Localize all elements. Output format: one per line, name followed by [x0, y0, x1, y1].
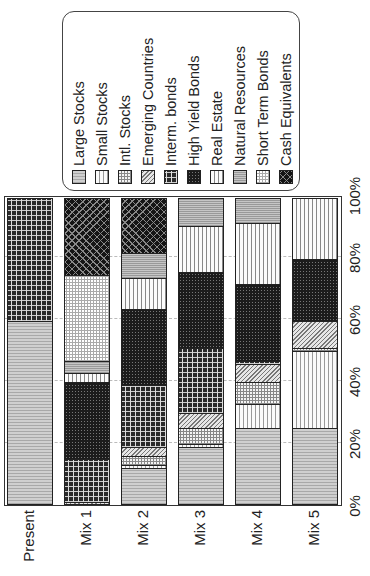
segment-real-estate [292, 198, 338, 259]
segment-intl-stocks [235, 382, 281, 403]
segment-emerging-countries [235, 364, 281, 382]
segment-emerging-countries [292, 321, 338, 349]
segment-natural-resources [178, 198, 224, 226]
segment-high-yield-bonds [64, 382, 110, 459]
legend-item: Natural Resources [228, 18, 251, 184]
tick-label: 40% [346, 367, 363, 397]
legend-item: Real Estate [205, 18, 228, 184]
legend-item: Intl. Stocks [113, 18, 136, 184]
legend-swatch-icon [118, 170, 132, 184]
bar-mix-2 [121, 198, 167, 505]
legend-swatch-icon [256, 170, 270, 184]
category-label: Mix 2 [120, 510, 166, 574]
legend-item: Emerging Countries [136, 18, 159, 184]
legend-swatch-icon [233, 170, 247, 184]
segment-high-yield-bonds [121, 309, 167, 386]
legend-label: Real Estate [209, 91, 225, 166]
category-label: Mix 3 [177, 510, 223, 574]
segment-small-stocks [121, 465, 167, 468]
segment-interm-bonds [235, 361, 281, 364]
segment-interm-bonds [178, 348, 224, 412]
tick-label: 80% [346, 243, 363, 273]
bar-mix-1 [64, 198, 110, 505]
bar-present [7, 198, 53, 505]
tick-label: 60% [346, 305, 363, 335]
segment-large-stocks [7, 321, 53, 505]
gridline [5, 318, 341, 319]
segment-cash-equivalents [64, 198, 110, 275]
segment-natural-resources [121, 253, 167, 278]
legend-item: Small Stocks [90, 18, 113, 184]
segment-emerging-countries [178, 413, 224, 428]
legend-label: Small Stocks [94, 82, 110, 166]
legend-item: Cash Equivalents [274, 18, 297, 184]
segment-large-stocks [235, 428, 281, 505]
segment-large-stocks [178, 447, 224, 505]
segment-real-estate [235, 223, 281, 284]
legend-item: Interm. bonds [159, 18, 182, 184]
legend-label: Emerging Countries [140, 38, 156, 166]
legend-label: Cash Equivalents [278, 53, 294, 166]
segment-cash-equivalents [121, 198, 167, 253]
category-label: Mix 5 [291, 510, 337, 574]
segment-real-estate [121, 278, 167, 309]
gridline [5, 256, 341, 257]
bar-mix-4 [235, 198, 281, 505]
segment-small-stocks [178, 444, 224, 447]
segment-intl-stocks [178, 428, 224, 443]
gridline [5, 442, 341, 443]
legend-label: Short Term Bonds [255, 50, 271, 166]
category-label: Mix 1 [63, 510, 109, 574]
segment-real-estate [64, 373, 110, 382]
tick-label: 20% [346, 429, 363, 459]
gridline [5, 380, 341, 381]
segment-real-estate [178, 226, 224, 272]
legend-swatch-icon [164, 170, 178, 184]
segment-intl-stocks [292, 348, 338, 351]
segment-interm-bonds [7, 198, 53, 321]
legend-item: Short Term Bonds [251, 18, 274, 184]
legend-item: Large Stocks [67, 18, 90, 184]
segment-large-stocks [121, 468, 167, 505]
segment-interm-bonds [64, 459, 110, 502]
segment-small-stocks [292, 352, 338, 429]
segment-natural-resources [64, 361, 110, 373]
legend-item: High Yield Bonds [182, 18, 205, 184]
segment-intl-stocks [121, 456, 167, 465]
segment-large-stocks [292, 428, 338, 505]
plot-area [4, 196, 342, 506]
segment-emerging-countries [64, 502, 110, 505]
bar-mix-5 [292, 198, 338, 505]
legend-label: Interm. bonds [163, 77, 179, 166]
segment-small-stocks [235, 404, 281, 429]
legend-label: Intl. Stocks [117, 95, 133, 166]
segment-emerging-countries [121, 447, 167, 456]
tick-label: 100% [346, 177, 363, 215]
segment-high-yield-bonds [178, 272, 224, 349]
legend-swatch-icon [72, 170, 86, 184]
legend: Large StocksSmall StocksIntl. StocksEmer… [62, 11, 300, 191]
segment-natural-resources [235, 198, 281, 223]
legend-label: High Yield Bonds [186, 56, 202, 166]
segment-short-term-bonds [64, 275, 110, 361]
segment-high-yield-bonds [235, 284, 281, 361]
chart-stage: Large StocksSmall StocksIntl. StocksEmer… [0, 0, 370, 576]
bar-mix-3 [178, 198, 224, 505]
legend-swatch-icon [141, 170, 155, 184]
category-label: Mix 4 [234, 510, 280, 574]
legend-swatch-icon [210, 170, 224, 184]
legend-label: Large Stocks [71, 81, 87, 166]
legend-swatch-icon [95, 170, 109, 184]
tick-label: 0% [346, 495, 363, 517]
segment-high-yield-bonds [292, 259, 338, 320]
category-label: Present [6, 510, 52, 574]
legend-label: Natural Resources [232, 46, 248, 166]
segment-interm-bonds [121, 385, 167, 446]
legend-swatch-icon [187, 170, 201, 184]
legend-swatch-icon [279, 170, 293, 184]
